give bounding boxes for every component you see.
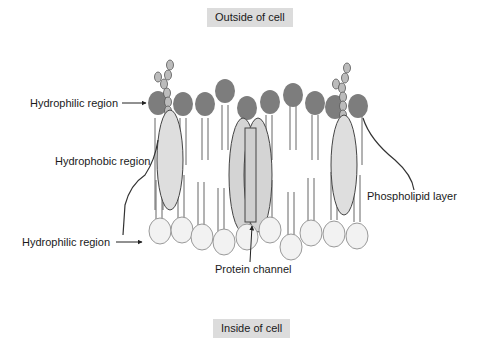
left-integral-protein: [157, 110, 183, 210]
right-integral-protein: [331, 115, 357, 215]
phospholipid-leader-line: [363, 118, 414, 190]
protein-channel: [229, 118, 272, 232]
cell-membrane-diagram: [0, 0, 477, 350]
